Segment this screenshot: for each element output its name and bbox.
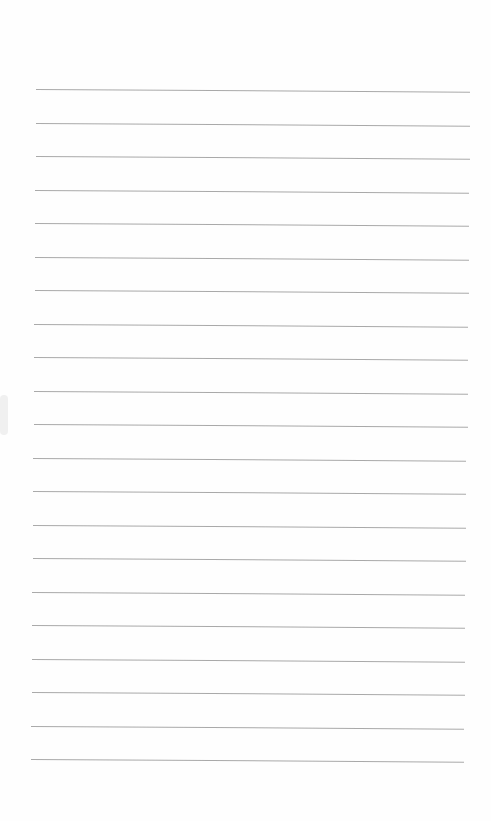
ruled-line <box>35 156 469 160</box>
ruled-line <box>33 491 466 495</box>
ruled-line <box>31 759 464 763</box>
ruled-line <box>34 290 468 294</box>
ruled-line <box>35 223 469 227</box>
ruled-line <box>33 424 466 428</box>
ruled-line <box>31 692 464 696</box>
ruled-line <box>33 458 466 462</box>
ruled-line <box>31 726 464 730</box>
ruled-line <box>35 257 469 261</box>
ruled-line <box>32 592 465 596</box>
paper-smudge <box>0 395 8 435</box>
ruled-line <box>33 525 466 529</box>
lined-paper-page <box>0 0 491 821</box>
ruled-line <box>32 659 465 663</box>
ruled-line <box>34 357 468 361</box>
ruled-line <box>35 190 469 194</box>
ruled-line <box>34 324 468 328</box>
ruled-line <box>32 625 465 629</box>
ruled-line <box>36 123 470 127</box>
ruled-line <box>34 391 468 395</box>
ruled-line <box>36 89 470 93</box>
ruled-line <box>32 558 465 562</box>
